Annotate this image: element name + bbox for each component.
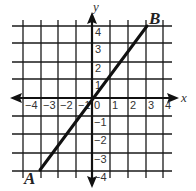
point-a-label: A: [23, 169, 35, 188]
y-tick-label: −1: [94, 116, 107, 128]
x-axis-label: x: [180, 90, 187, 105]
y-tick-label: 2: [95, 62, 101, 74]
x-tick-labels: −4 −3 −2 −1 0 1 2 3 4: [25, 99, 171, 111]
x-tick-label: −2: [60, 99, 73, 111]
x-tick-label: 1: [112, 99, 118, 111]
point-b-label: B: [148, 9, 160, 28]
x-tick-label: −4: [25, 99, 38, 111]
x-tick-label: −3: [43, 99, 56, 111]
x-tick-label: 2: [130, 99, 136, 111]
y-tick-label: −3: [94, 153, 107, 165]
y-axis-label: y: [91, 0, 99, 14]
coordinate-plane: x y −4 −3 −2 −1 0 1 2 3 4 4 3 2 1 −1 −2 …: [0, 0, 196, 191]
y-tick-label: 4: [95, 26, 101, 38]
x-tick-label: 0: [94, 99, 100, 111]
x-tick-label: 3: [148, 99, 154, 111]
y-tick-label: −2: [94, 134, 107, 146]
y-tick-label: −4: [94, 171, 107, 183]
y-tick-label: 3: [95, 43, 101, 55]
x-tick-label: 4: [165, 99, 171, 111]
